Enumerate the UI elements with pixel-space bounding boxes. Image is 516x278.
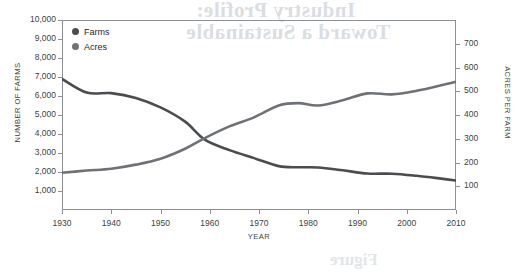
y-axis-left-tickmark <box>58 77 62 78</box>
y-axis-left-tick-label: 1,000 <box>18 185 56 195</box>
y-axis-right-tickmark <box>456 91 460 92</box>
y-axis-left-tickmark <box>58 58 62 59</box>
y-axis-left-tick-label: 6,000 <box>18 90 56 100</box>
y-axis-right-tickmark <box>456 139 460 140</box>
legend-item-acres: Acres <box>72 39 110 54</box>
y-axis-right-tickmark <box>456 163 460 164</box>
legend-marker-icon <box>72 43 79 50</box>
y-axis-left-tick-label: 3,000 <box>18 147 56 157</box>
legend-label: Farms <box>84 27 110 37</box>
y-axis-left-tickmark <box>58 96 62 97</box>
x-axis-tick-label: 2010 <box>436 218 476 228</box>
x-axis-tickmark <box>358 210 359 214</box>
y-axis-left-tickmark <box>58 153 62 154</box>
x-axis-tickmark <box>456 210 457 214</box>
x-axis-tickmark <box>62 210 63 214</box>
x-axis-title: YEAR <box>62 232 456 241</box>
legend-label: Acres <box>84 42 107 52</box>
x-axis-tick-label: 1930 <box>42 218 82 228</box>
y-axis-left-tick-label: 10,000 <box>18 14 56 24</box>
y-axis-left-tickmark <box>58 20 62 21</box>
y-axis-right-tick-label: 700 <box>464 38 494 48</box>
chart-lines <box>62 20 456 210</box>
page-bleed-through-line3: Figure <box>330 250 378 270</box>
x-axis-tick-label: 2000 <box>387 218 427 228</box>
legend-item-farms: Farms <box>72 24 110 39</box>
x-axis-tick-label: 1980 <box>288 218 328 228</box>
x-axis-tick-label: 1970 <box>239 218 279 228</box>
y-axis-left-tick-label: 2,000 <box>18 166 56 176</box>
y-axis-left-tickmark <box>58 134 62 135</box>
x-axis-tick-label: 1940 <box>91 218 131 228</box>
y-axis-left-tickmark <box>58 39 62 40</box>
y-axis-left-tick-label: 7,000 <box>18 71 56 81</box>
y-axis-right-tick-label: 300 <box>464 133 494 143</box>
y-axis-left-tick-label: 5,000 <box>18 109 56 119</box>
x-axis-tickmark <box>210 210 211 214</box>
legend-marker-icon <box>72 28 79 35</box>
y-axis-left-tick-label: 9,000 <box>18 33 56 43</box>
y-axis-left-tickmark <box>58 172 62 173</box>
x-axis-tickmark <box>161 210 162 214</box>
y-axis-left-tickmark <box>58 115 62 116</box>
x-axis-tickmark <box>259 210 260 214</box>
x-axis-tick-label: 1950 <box>141 218 181 228</box>
y-axis-right-tickmark <box>456 115 460 116</box>
x-axis-tickmark <box>308 210 309 214</box>
y-axis-right-tick-label: 600 <box>464 62 494 72</box>
x-axis-tick-label: 1990 <box>338 218 378 228</box>
y-axis-right-tick-label: 500 <box>464 85 494 95</box>
y-axis-left-tickmark <box>58 191 62 192</box>
y-axis-right-tickmark <box>456 44 460 45</box>
chart-legend: FarmsAcres <box>72 24 110 54</box>
y-axis-right-tickmark <box>456 186 460 187</box>
y-axis-left-title: NUMBER OF FARMS <box>13 48 22 158</box>
x-axis-tickmark <box>111 210 112 214</box>
y-axis-right-tickmark <box>456 68 460 69</box>
y-axis-left-tick-label: 8,000 <box>18 52 56 62</box>
y-axis-right-tick-label: 400 <box>464 109 494 119</box>
x-axis-tick-label: 1960 <box>190 218 230 228</box>
y-axis-right-tick-label: 200 <box>464 157 494 167</box>
y-axis-right-title: ACRES PER FARM <box>503 48 512 158</box>
y-axis-left-tick-label: 4,000 <box>18 128 56 138</box>
x-axis-tickmark <box>407 210 408 214</box>
y-axis-right-tick-label: 100 <box>464 180 494 190</box>
chart-container: Industry Profile: Toward a Sustainable F… <box>0 0 516 278</box>
